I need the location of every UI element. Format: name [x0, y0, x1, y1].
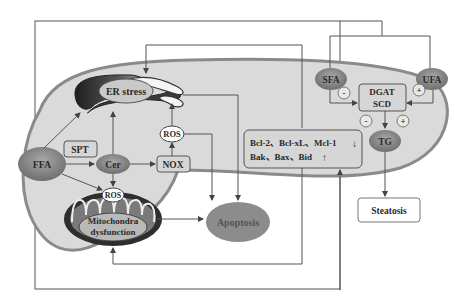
- ufa-label: UFA: [423, 75, 442, 85]
- bcl-line1: Bcl-2、Bcl-xL、Mcl-1: [250, 138, 337, 148]
- mito-label-line1: Mitochondra: [88, 216, 139, 226]
- cer-label: Cer: [105, 160, 121, 170]
- steatosis-label: Steatosis: [371, 206, 407, 216]
- ros-mito-label: ROS: [105, 191, 122, 200]
- mito-label-line2: dysfunction: [90, 227, 135, 237]
- apoptosis-label: Apoptosis: [217, 217, 259, 228]
- tg-label: TG: [378, 137, 392, 147]
- plus-icon: +: [416, 85, 421, 95]
- nox-label: NOX: [162, 160, 183, 170]
- spt-label: SPT: [71, 145, 89, 155]
- dgat-label: DGAT: [369, 87, 394, 97]
- ros-top-label: ROS: [163, 129, 181, 139]
- lipotoxicity-diagram: ER stress ROS FFA SPT Cer NOX Mitochondr…: [0, 0, 472, 303]
- scd-label: SCD: [373, 99, 392, 109]
- minus-icon: -: [365, 116, 368, 126]
- bcl-box: [244, 130, 362, 168]
- down-arrow-icon: ↓: [352, 138, 357, 149]
- er-stress-label: ER stress: [106, 86, 146, 97]
- ffa-label: FFA: [33, 159, 52, 170]
- bcl-line2: Bak、Bax、Bid: [250, 152, 312, 162]
- sfa-label: SFA: [322, 75, 339, 85]
- minus-icon: -: [343, 88, 346, 98]
- plus-icon: +: [400, 116, 405, 126]
- up-arrow-icon: ↑: [322, 152, 327, 163]
